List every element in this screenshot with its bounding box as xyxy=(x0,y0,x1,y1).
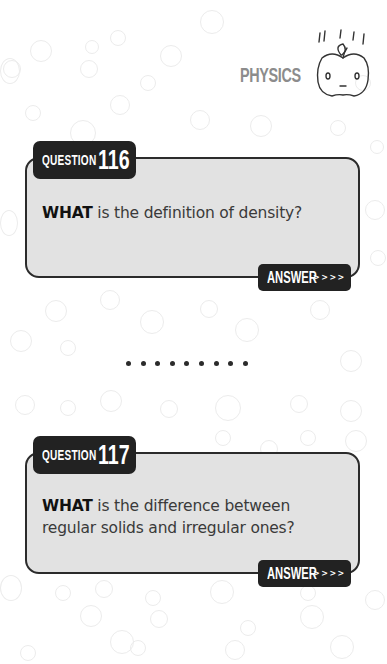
dot xyxy=(199,361,204,366)
dot xyxy=(228,361,233,366)
question-label: QUESTION xyxy=(42,447,79,463)
arrows-icon: >>>> xyxy=(313,273,346,282)
dot-separator xyxy=(126,361,248,366)
answer-button-116[interactable]: ANSWER >>>> xyxy=(258,264,351,291)
falling-apple-icon xyxy=(314,28,372,100)
question-tab-117: QUESTION 117 xyxy=(33,436,136,474)
dot xyxy=(243,361,248,366)
subject-title: PHYSICS xyxy=(240,64,301,87)
arrows-icon: >>>> xyxy=(313,569,346,578)
question-text: WHAT is the difference between regular s… xyxy=(42,495,342,539)
question-keyword: WHAT xyxy=(42,497,93,515)
question-text: WHAT is the definition of density? xyxy=(42,202,342,224)
dot xyxy=(170,361,175,366)
question-body: is the definition of density? xyxy=(93,204,302,222)
question-label: QUESTION xyxy=(42,152,79,168)
dot xyxy=(184,361,189,366)
dot xyxy=(141,361,146,366)
dot xyxy=(126,361,131,366)
question-number: 116 xyxy=(98,144,130,176)
question-number: 117 xyxy=(98,439,130,471)
dot xyxy=(214,361,219,366)
answer-label: ANSWER xyxy=(267,269,298,287)
question-keyword: WHAT xyxy=(42,204,93,222)
answer-button-117[interactable]: ANSWER >>>> xyxy=(258,560,351,587)
answer-label: ANSWER xyxy=(267,565,298,583)
dot xyxy=(155,361,160,366)
question-tab-116: QUESTION 116 xyxy=(33,141,136,179)
